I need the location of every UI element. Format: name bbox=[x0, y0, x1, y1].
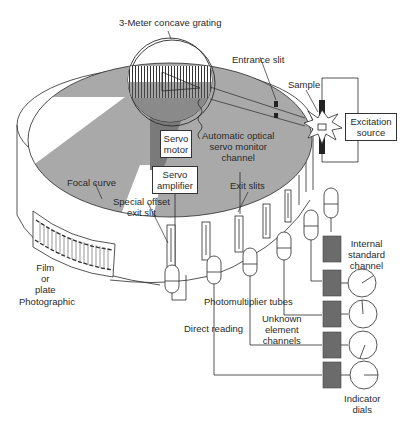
channel-boxes bbox=[323, 236, 341, 388]
photomultiplier-label: Photomultiplier tubes bbox=[204, 296, 293, 307]
indicator-dials-label: Indicator dials bbox=[344, 393, 380, 415]
channel-box-4 bbox=[323, 362, 341, 388]
focal-curve-label: Focal curve bbox=[67, 177, 116, 188]
spectrometer-diagram bbox=[0, 0, 406, 427]
channel-box-1 bbox=[323, 270, 341, 296]
excitation-source-box: Excitation source bbox=[345, 113, 397, 141]
pmt-3 bbox=[243, 248, 257, 276]
channel-box-3 bbox=[323, 332, 341, 358]
pmt-1 bbox=[165, 265, 179, 293]
special-offset-label: Special offset exit slit bbox=[113, 196, 170, 218]
indicator-dials bbox=[341, 269, 378, 389]
direct-reading-label: Direct reading bbox=[184, 323, 243, 334]
pmt-6 bbox=[324, 188, 338, 218]
sample-label: Sample bbox=[288, 79, 320, 90]
entrance-slit-label: Entrance slit bbox=[232, 54, 284, 65]
exit-slits-label: Exit slits bbox=[230, 180, 265, 191]
unknown-channels-label: Unknown element channels bbox=[262, 313, 302, 346]
pmt-4 bbox=[277, 232, 291, 260]
internal-standard-box bbox=[323, 236, 341, 262]
film-label: Film or plate bbox=[35, 262, 56, 295]
pmt-5 bbox=[304, 210, 318, 240]
photographic-label: Photographic bbox=[19, 296, 75, 307]
pmt-2 bbox=[207, 256, 221, 284]
internal-standard-label: Internal standard channel bbox=[348, 238, 385, 271]
channel-box-2 bbox=[323, 301, 341, 327]
dial-3 bbox=[349, 331, 377, 359]
servo-amplifier-box: Servo amplifier bbox=[152, 166, 198, 194]
servo-monitor-label: Automatic optical servo monitor channel bbox=[202, 130, 274, 163]
grating-label: 3-Meter concave grating bbox=[119, 17, 221, 28]
servo-motor-box: Servo motor bbox=[160, 130, 192, 158]
